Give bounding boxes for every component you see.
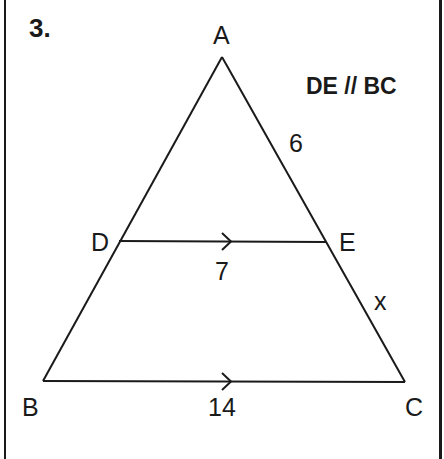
- side-AB: [43, 57, 222, 381]
- problem-frame: 3. DE // BC A D E B C 6 x 7 14: [0, 0, 444, 459]
- vertex-label-B: B: [22, 393, 39, 421]
- vertex-label-E: E: [339, 228, 356, 256]
- problem-number: 3.: [29, 13, 51, 43]
- segment-DE: [119, 241, 326, 242]
- length-label-AE: 6: [289, 129, 303, 157]
- vertex-label-D: D: [91, 228, 109, 256]
- length-label-DE: 7: [215, 257, 229, 285]
- length-label-BC: 14: [208, 393, 236, 421]
- side-AC: [222, 57, 405, 382]
- length-label-EC: x: [374, 287, 387, 315]
- vertex-label-C: C: [405, 393, 423, 421]
- parallel-condition: DE // BC: [306, 73, 397, 99]
- vertex-label-A: A: [213, 21, 230, 49]
- side-BC: [43, 381, 405, 382]
- triangle-diagram: 3. DE // BC A D E B C 6 x 7 14: [0, 0, 444, 459]
